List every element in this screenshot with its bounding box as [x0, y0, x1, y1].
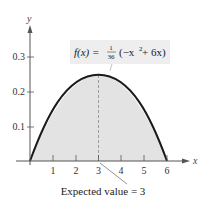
x-tick-label: 5: [142, 165, 147, 176]
y-ticks: 0.1 0.2 0.3: [13, 51, 35, 132]
chart-canvas: y x 0.1 0.2 0.3 1 2 3 4 5 6 f(x) = 1 36 …: [0, 0, 207, 205]
x-axis-arrow-icon: [182, 159, 190, 164]
x-tick-label: 2: [74, 165, 79, 176]
x-tick-label: 4: [119, 165, 124, 176]
formula-rhs: (−x: [119, 46, 135, 59]
formula-lhs: f(x) =: [74, 46, 99, 59]
formula-leader-line: [110, 64, 112, 71]
x-axis-label: x: [192, 155, 198, 166]
y-tick-label: 0.2: [13, 86, 26, 97]
y-tick-label: 0.3: [13, 51, 26, 62]
formula-numerator: 1: [109, 44, 113, 52]
formula-denominator: 36: [108, 53, 116, 61]
y-axis-label: y: [26, 13, 32, 24]
formula-tail: + 6x): [142, 46, 166, 59]
x-tick-label: 3: [96, 165, 101, 176]
y-axis-arrow-icon: [28, 25, 33, 33]
expected-value-label: Expected value = 3: [61, 185, 146, 197]
y-tick-label: 0.1: [13, 121, 26, 132]
x-tick-label: 1: [51, 165, 56, 176]
x-tick-label: 6: [165, 165, 170, 176]
